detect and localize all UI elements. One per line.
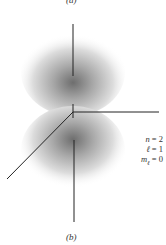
l-value: ℓ = 1	[133, 144, 163, 154]
orbital-diagram	[0, 0, 166, 245]
panel-label-b: (b)	[66, 232, 77, 242]
n-value: n = 2	[133, 134, 163, 144]
quantum-numbers: n = 2 ℓ = 1 mℓ = 0	[133, 134, 163, 168]
lower-lobe	[21, 106, 125, 194]
panel-label-a: (a)	[66, 0, 77, 5]
orbital-figure: (a) n = 2 ℓ = 1 mℓ = 0 (b)	[0, 0, 166, 245]
ml-value: mℓ = 0	[133, 154, 163, 168]
